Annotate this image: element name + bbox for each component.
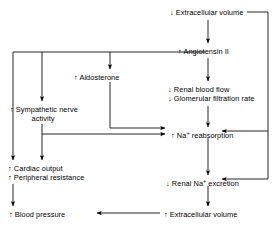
node-label-line-1: ↓ Renal blood flow: [168, 85, 254, 94]
node-label: ↑ Angiotensin II: [178, 47, 229, 56]
node-increased-angiotensin-ii: ↑ Angiotensin II: [178, 47, 229, 56]
node-label-line-2: activity: [10, 114, 76, 123]
node-label: ↑ Extracellular volume: [164, 210, 237, 219]
node-label: ↑ Aldosterone: [74, 73, 119, 82]
flowchart-canvas: ↓ Extracellular volume ↑ Angiotensin II …: [0, 0, 274, 233]
node-increased-extracellular-volume: ↑ Extracellular volume: [164, 210, 237, 219]
node-increased-cardiac-output-and-peripheral-resistance: ↑ Cardiac output ↑ Peripheral resistance: [8, 164, 84, 182]
node-decreased-renal-blood-flow-and-gfr: ↓ Renal blood flow ↓ Glomerular filtrati…: [168, 85, 254, 103]
node-label: ↓ Renal Na+ excretion: [166, 179, 239, 188]
node-label-line-2: ↓ Glomerular filtration rate: [168, 94, 254, 103]
node-label: ↓ Extracellular volume: [170, 8, 243, 17]
node-increased-na-reabsorption: ↑ Na+ reabsorption: [171, 131, 233, 140]
edge-sympathetic-to-na-reabsorption: [42, 124, 165, 134]
node-label-line-1: ↑ Cardiac output: [8, 164, 84, 173]
node-label-line-2: ↑ Peripheral resistance: [8, 173, 84, 182]
node-increased-blood-pressure: ↑ Blood pressure: [9, 210, 65, 219]
edge-aldosterone-to-na-reabsorption: [110, 82, 165, 128]
node-increased-aldosterone: ↑ Aldosterone: [74, 73, 119, 82]
edge-right-rail-top: [247, 12, 268, 131]
node-label: ↑ Na+ reabsorption: [171, 131, 233, 140]
node-decreased-extracellular-volume: ↓ Extracellular volume: [170, 8, 243, 17]
node-label-line-1: ↑ Sympathetic nerve: [10, 105, 76, 114]
node-increased-sympathetic-nerve-activity: ↑ Sympathetic nerve activity: [10, 105, 76, 123]
node-decreased-renal-na-excretion: ↓ Renal Na+ excretion: [166, 179, 239, 188]
node-label: ↑ Blood pressure: [9, 210, 65, 219]
